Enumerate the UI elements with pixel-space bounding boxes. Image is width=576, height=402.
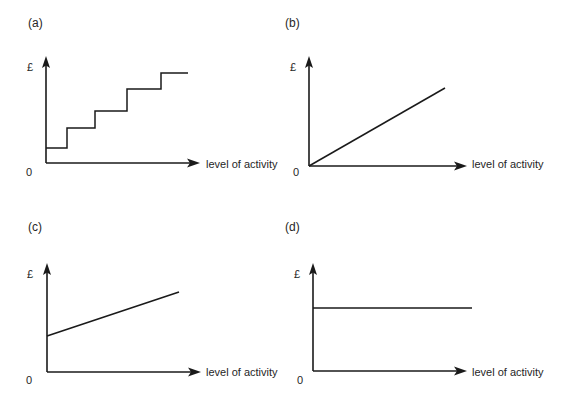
panel-a: (a) £ 0 level of activity <box>26 16 278 178</box>
panel-a-step-series <box>46 73 188 148</box>
panel-d-label: (d) <box>285 220 300 234</box>
panel-d: (d) £ 0 level of activity <box>285 220 544 386</box>
cost-behaviour-figure: (a) £ 0 level of activity (b) £ 0 level … <box>0 0 576 402</box>
panel-d-x-axis-label: level of activity <box>472 366 544 378</box>
panel-b-label: (b) <box>285 16 300 30</box>
panel-c-semi-variable-cost-line <box>47 292 179 336</box>
panel-c: (c) £ 0 level of activity <box>26 220 278 386</box>
panel-c-label: (c) <box>28 220 42 234</box>
panel-a-origin-label: 0 <box>26 166 32 178</box>
panel-d-y-axis-label: £ <box>294 268 300 280</box>
panel-d-origin-label: 0 <box>297 374 303 386</box>
panel-c-y-axis-label: £ <box>27 268 33 280</box>
panel-c-x-axis-label: level of activity <box>206 366 278 378</box>
panel-b-variable-cost-line <box>309 88 445 166</box>
panel-b-origin-label: 0 <box>293 166 299 178</box>
panel-b-x-axis-label: level of activity <box>472 158 544 170</box>
panel-a-y-axis-label: £ <box>27 61 33 73</box>
panel-c-origin-label: 0 <box>26 374 32 386</box>
panel-b-y-axis-label: £ <box>290 61 296 73</box>
panel-a-x-axis-label: level of activity <box>206 158 278 170</box>
figure-canvas: (a) £ 0 level of activity (b) £ 0 level … <box>0 0 576 402</box>
panel-a-label: (a) <box>28 16 43 30</box>
panel-b: (b) £ 0 level of activity <box>285 16 544 178</box>
